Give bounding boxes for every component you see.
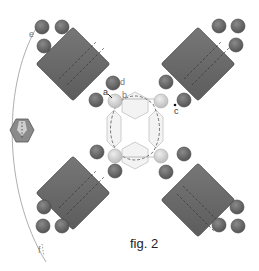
pearl-top-right xyxy=(154,94,168,108)
round-bead xyxy=(37,39,51,53)
label-f: f xyxy=(38,245,41,255)
round-bead xyxy=(37,200,51,214)
round-bead xyxy=(35,20,49,34)
beadwork-diagram: e a b d c f xyxy=(0,0,259,271)
label-e: e xyxy=(29,29,34,39)
round-bead xyxy=(212,218,226,232)
round-bead xyxy=(231,219,245,233)
round-bead xyxy=(55,219,69,233)
center-crystal-left xyxy=(107,110,121,148)
round-bead xyxy=(212,19,226,33)
square-bead xyxy=(161,27,235,101)
round-bead xyxy=(177,147,191,161)
square-bead xyxy=(36,156,110,230)
label-c: c xyxy=(174,106,179,116)
round-bead xyxy=(106,76,120,90)
round-bead xyxy=(230,200,244,214)
pearl-bottom-right xyxy=(154,149,168,163)
figure-caption: fig. 2 xyxy=(130,236,158,251)
square-bead xyxy=(36,27,110,101)
round-bead xyxy=(108,164,122,178)
round-bead xyxy=(229,38,243,52)
round-bead xyxy=(55,20,69,34)
arrow-f xyxy=(42,244,44,256)
unit-bottom-right xyxy=(159,147,245,237)
label-d: d xyxy=(120,77,125,87)
round-bead xyxy=(90,145,104,159)
unit-top-right xyxy=(159,19,245,107)
round-bead xyxy=(36,219,50,233)
center-crystal-right xyxy=(149,110,163,148)
pearl-bottom-left xyxy=(108,149,122,163)
round-bead xyxy=(159,165,173,179)
round-bead xyxy=(177,93,191,107)
round-bead xyxy=(231,19,245,33)
round-bead xyxy=(159,75,173,89)
round-bead xyxy=(89,93,103,107)
label-a: a xyxy=(103,87,108,97)
side-bicone xyxy=(10,119,34,142)
center-crystal-bottom xyxy=(122,142,148,169)
label-b: b xyxy=(122,90,127,100)
